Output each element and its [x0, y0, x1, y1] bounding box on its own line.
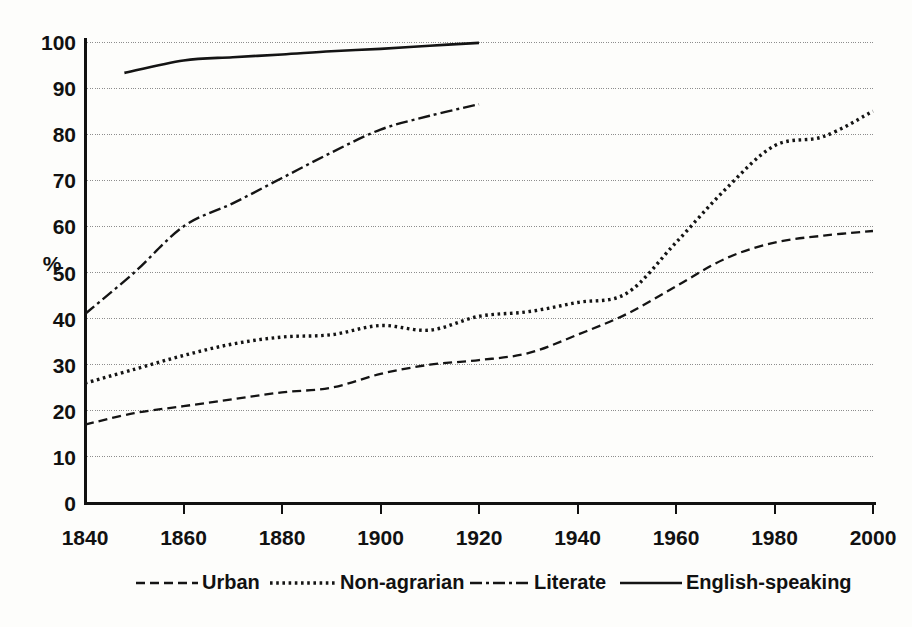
x-tick-label: 1860 — [160, 526, 207, 549]
x-tick-label: 1840 — [62, 526, 109, 549]
y-tick-label: 30 — [53, 354, 76, 377]
y-tick-label: 0 — [64, 492, 76, 515]
y-tick-label: 20 — [53, 400, 76, 423]
line-chart: 0102030405060708090100 % 184018601880190… — [0, 0, 912, 627]
legend-label-non-agrarian: Non-agrarian — [340, 571, 464, 593]
x-tick-label: 1960 — [653, 526, 700, 549]
legend-label-literate: Literate — [534, 571, 606, 593]
x-tick-label: 1880 — [259, 526, 306, 549]
y-tick-label: 60 — [53, 215, 76, 238]
y-tick-label: 100 — [41, 31, 76, 54]
x-tick-label: 2000 — [850, 526, 897, 549]
y-tick-label: 80 — [53, 123, 76, 146]
x-tick-label: 1980 — [751, 526, 798, 549]
x-tick-label: 1920 — [456, 526, 503, 549]
y-tick-label: 10 — [53, 446, 76, 469]
y-tick-label: 70 — [53, 169, 76, 192]
legend-label-urban: Urban — [202, 571, 260, 593]
x-axis-tick-labels: 184018601880190019201940196019802000 — [62, 526, 897, 549]
y-axis-label: % — [43, 252, 62, 275]
legend-label-english-speaking: English-speaking — [686, 571, 852, 593]
x-tick-label: 1940 — [554, 526, 601, 549]
y-tick-label: 40 — [53, 308, 76, 331]
x-tick-label: 1900 — [357, 526, 404, 549]
y-tick-label: 90 — [53, 77, 76, 100]
